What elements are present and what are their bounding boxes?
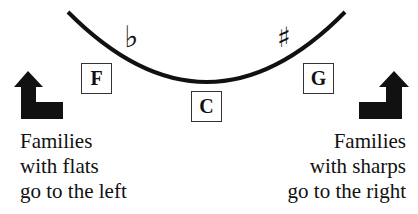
sharps-caption-line-2: with sharps <box>288 154 406 179</box>
key-label-c: C <box>199 95 213 118</box>
right-bent-arrow-icon <box>359 71 409 119</box>
flats-caption-line-3: go to the left <box>20 179 127 204</box>
flat-icon: ♭ <box>124 22 138 52</box>
left-bent-arrow-icon <box>14 71 63 119</box>
sharp-icon: ♯ <box>277 24 291 52</box>
flats-caption-line-2: with flats <box>20 154 127 179</box>
key-box-g: G <box>303 63 334 94</box>
sharps-caption-line-3: go to the right <box>288 179 406 204</box>
flats-caption-line-1: Families <box>20 129 127 154</box>
key-label-f: F <box>90 67 102 90</box>
circle-of-fifths-diagram: ♭ ♯ F C G Families with flats go to the … <box>0 0 418 214</box>
sharps-caption: Families with sharps go to the right <box>288 129 406 204</box>
flats-caption: Families with flats go to the left <box>20 129 127 204</box>
key-label-g: G <box>311 67 327 90</box>
key-box-c: C <box>191 91 222 122</box>
key-box-f: F <box>81 63 112 94</box>
sharps-caption-line-1: Families <box>288 129 406 154</box>
